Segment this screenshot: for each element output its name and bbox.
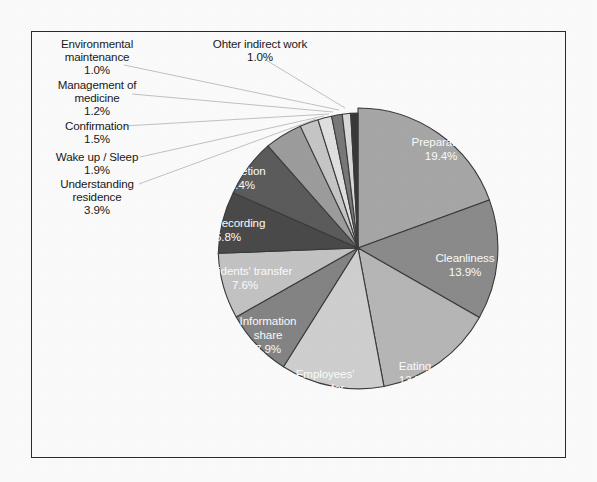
callout-understanding-residence-line2: residence (38, 190, 156, 203)
callout-label-understanding-residence: Understanding residence 3.9% (38, 177, 156, 217)
callout-ohter-indirect-work-value: 1.0% (180, 50, 340, 63)
callout-understanding-residence-value: 3.9% (38, 203, 156, 216)
callout-environmental-maintenance-line1: Environmental (38, 37, 156, 50)
slice-label-data-recording-name: Data recording (191, 216, 266, 229)
slice-label-preparation-name: Preparation (412, 135, 471, 148)
slice-label-preparation-value: 19.4% (425, 149, 457, 162)
callout-label-wake-up-sleep: Wake up / Sleep 1.9% (34, 150, 160, 176)
callout-confirmation-value: 1.5% (38, 132, 156, 145)
callout-label-management-of-medicine: Management of medicine 1.2% (38, 78, 156, 118)
slice-label-excretion-value: 5.4% (229, 178, 255, 191)
callout-ohter-indirect-work-line1: Ohter indirect work (180, 37, 340, 50)
slice-label-residents-transfer-name: Residents' transfer (198, 264, 293, 277)
leader-line-ohter-indirect-work (266, 60, 345, 108)
callout-management-of-medicine-value: 1.2% (38, 104, 156, 117)
slice-label-cleanliness-name: Cleanliness (436, 251, 495, 264)
pie-chart-figure: Preparation 19.4% Cleanliness 13.9% Eati… (0, 0, 597, 482)
callout-label-confirmation: Confirmation 1.5% (38, 119, 156, 145)
callout-environmental-maintenance-line2: maintenance (38, 50, 156, 63)
callout-wake-up-sleep-value: 1.9% (34, 163, 160, 176)
callout-management-of-medicine-line1: Management of (38, 78, 156, 91)
slice-label-information-share-name1: Information (240, 314, 297, 327)
callout-label-environmental-maintenance: Environmental maintenance 1.0% (38, 37, 156, 77)
leader-line-management-of-medicine (132, 94, 333, 112)
slice-label-cleanliness-value: 13.9% (449, 265, 481, 278)
slice-label-excretion-name: Excretion (218, 164, 265, 177)
slice-label-data-recording-value: 5.8% (215, 230, 241, 243)
slice-label-information-share-name2: share (254, 328, 283, 341)
slice-label-eating: Eating 13.7% (399, 359, 431, 386)
slice-label-eating-value: 13.7% (399, 373, 431, 386)
slice-label-employees-transfer-name1: Employees' (296, 367, 355, 380)
slice-label-employees-transfer-value: 11.9% (309, 395, 341, 408)
callout-label-ohter-indirect-work: Ohter indirect work 1.0% (180, 37, 340, 63)
slice-label-residents-transfer-value: 7.6% (232, 278, 258, 291)
callout-confirmation-line1: Confirmation (38, 119, 156, 132)
callout-wake-up-sleep-line1: Wake up / Sleep (34, 150, 160, 163)
slice-label-eating-name: Eating (399, 359, 431, 372)
callout-environmental-maintenance-value: 1.0% (38, 63, 156, 76)
callout-understanding-residence-line1: Understanding (38, 177, 156, 190)
slice-label-employees-transfer-name2: transfer (306, 381, 345, 394)
slice-label-information-share-value: 7.9% (255, 342, 281, 355)
callout-management-of-medicine-line2: medicine (38, 91, 156, 104)
